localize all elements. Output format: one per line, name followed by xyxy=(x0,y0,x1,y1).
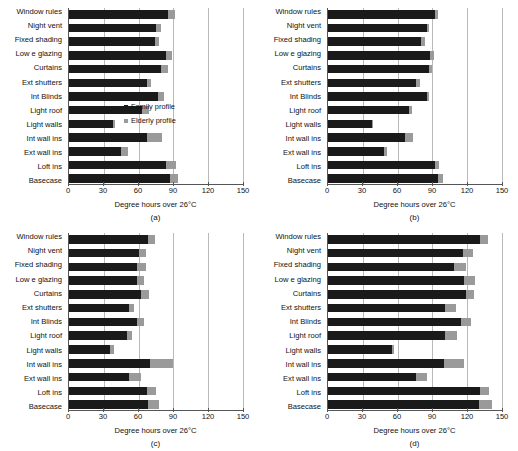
x-tick-mark xyxy=(362,408,363,412)
bar-segment-family xyxy=(328,92,427,101)
figure-four-panel-bar-charts: Window rulesNight ventFixed shadingLow e… xyxy=(0,0,518,451)
x-tick-mark xyxy=(432,408,433,412)
x-axis-line-a xyxy=(68,184,243,185)
bar-segment-family xyxy=(69,345,110,354)
bar-segment-elderly xyxy=(166,161,175,170)
x-tick-label: 90 xyxy=(169,412,177,421)
x-tick-mark xyxy=(173,408,174,412)
bar-segment-elderly xyxy=(480,235,488,244)
x-tick-label: 120 xyxy=(461,412,474,421)
bar-segment-family xyxy=(328,79,416,88)
category-label: Fixed shading xyxy=(0,36,66,44)
bar-segment-family xyxy=(69,276,137,285)
x-axis-title-a: Degree hours over 26°C xyxy=(68,200,243,209)
gridline xyxy=(243,233,244,411)
legend-swatch-family-icon xyxy=(124,105,128,109)
bar-segment-family xyxy=(328,133,405,142)
bar-row xyxy=(328,387,502,396)
bar-row xyxy=(328,276,502,285)
bar-segment-elderly xyxy=(421,37,426,46)
panel-caption-b: (b) xyxy=(327,213,502,222)
bar-segment-elderly xyxy=(409,106,411,115)
category-label: Night vent xyxy=(0,247,66,255)
x-axis-line-b xyxy=(327,184,502,185)
bar-row xyxy=(69,10,243,19)
bar-segment-family xyxy=(69,304,129,313)
bar-segment-elderly xyxy=(479,400,492,409)
x-tick-mark xyxy=(467,408,468,412)
bar-segment-family xyxy=(328,174,438,183)
x-tick-label: 150 xyxy=(237,412,250,421)
x-tick-label: 150 xyxy=(496,412,509,421)
bar-segment-elderly xyxy=(384,147,387,156)
bar-segment-elderly xyxy=(392,345,394,354)
bar-segment-family xyxy=(69,147,121,156)
bar-segment-family xyxy=(69,51,166,60)
bar-segment-family xyxy=(328,161,435,170)
bar-segment-family xyxy=(69,263,137,272)
gridline xyxy=(243,8,244,185)
category-label: Curtains xyxy=(0,290,66,298)
plot-area-d xyxy=(327,233,502,411)
bar-segment-elderly xyxy=(416,373,426,382)
bar-segment-family xyxy=(328,65,429,74)
x-tick-mark xyxy=(362,182,363,186)
bar-row xyxy=(69,373,243,382)
bar-segment-family xyxy=(328,400,479,409)
bar-segment-elderly xyxy=(141,290,149,299)
category-label: Curtains xyxy=(0,64,66,72)
bar-segment-elderly xyxy=(121,147,128,156)
bar-row xyxy=(69,387,243,396)
bar-segment-elderly xyxy=(147,79,152,88)
bar-row xyxy=(69,174,243,183)
bar-segment-family xyxy=(69,373,129,382)
bar-segment-elderly xyxy=(480,387,489,396)
bar-row xyxy=(328,331,502,340)
bar-segment-elderly xyxy=(454,263,466,272)
bar-segment-family xyxy=(328,106,409,115)
category-label: Night vent xyxy=(259,22,325,30)
x-tick-label: 0 xyxy=(325,412,329,421)
bar-segment-elderly xyxy=(110,345,115,354)
bar-row xyxy=(328,37,502,46)
category-label: Int Blinds xyxy=(0,318,66,326)
category-label: Light roof xyxy=(259,332,325,340)
bar-row xyxy=(69,24,243,33)
bar-segment-family xyxy=(328,331,445,340)
bar-row xyxy=(69,161,243,170)
bar-segment-family xyxy=(69,359,150,368)
category-axis-a: Window rulesNight ventFixed shadingLow e… xyxy=(0,8,66,185)
panel-caption-c: (c) xyxy=(68,439,243,448)
bar-segment-family xyxy=(69,37,155,46)
bar-row xyxy=(328,400,502,409)
bar-segment-family xyxy=(328,235,480,244)
x-tick-label: 60 xyxy=(134,186,142,195)
bar-segment-family xyxy=(69,174,170,183)
bar-row xyxy=(328,65,502,74)
panel-d: Window rulesNight ventFixed shadingLow e… xyxy=(259,225,518,451)
bar-segment-family xyxy=(328,359,444,368)
category-label: Basecase xyxy=(0,403,66,411)
x-tick-label: 0 xyxy=(66,412,70,421)
bar-segment-elderly xyxy=(150,359,173,368)
category-label: Ext wall ins xyxy=(0,149,66,157)
bar-segment-elderly xyxy=(416,79,419,88)
x-tick-mark xyxy=(103,182,104,186)
x-tick-mark xyxy=(208,182,209,186)
x-tick-mark xyxy=(432,182,433,186)
bar-segment-elderly xyxy=(445,304,455,313)
bar-row xyxy=(328,263,502,272)
category-axis-d: Window rulesNight ventFixed shadingLow e… xyxy=(259,233,325,411)
bar-row xyxy=(328,24,502,33)
category-label: Int Blinds xyxy=(0,93,66,101)
bar-row xyxy=(69,79,243,88)
bar-row xyxy=(328,304,502,313)
gridline xyxy=(502,8,503,185)
plot-area-a xyxy=(68,8,243,185)
x-tick-mark xyxy=(397,408,398,412)
bar-segment-elderly xyxy=(445,331,457,340)
bars-a xyxy=(69,8,243,185)
category-label: Light walls xyxy=(0,121,66,129)
category-label: Fixed shading xyxy=(259,36,325,44)
category-label: Int wall ins xyxy=(0,361,66,369)
